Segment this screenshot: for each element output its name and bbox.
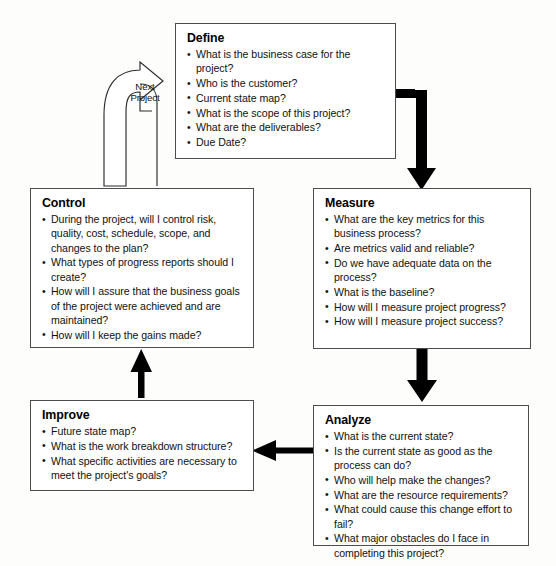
bullet-item: What could cause this change effort to f… — [325, 502, 519, 530]
bullet-item: How will I measure project progress? — [325, 300, 521, 314]
bullet-item: How will I assure that the business goal… — [42, 284, 244, 327]
phase-title-improve: Improve — [42, 408, 244, 423]
bullet-item: Is the current state as good as the proc… — [325, 444, 519, 472]
bullet-item: What is the work breakdown structure? — [42, 439, 244, 453]
bullet-item: What are the deliverables? — [187, 120, 386, 134]
phase-title-measure: Measure — [325, 196, 521, 211]
next-project-label-line2: Project — [130, 92, 159, 103]
bullet-item: What are the key metrics for this busine… — [325, 212, 521, 240]
bullet-item: How will I measure project success? — [325, 314, 521, 328]
arrow-improve-to-control — [131, 349, 153, 398]
phase-title-control: Control — [42, 196, 244, 211]
bullet-item: What specific activities are necessary t… — [42, 454, 244, 482]
next-project-label: Next Project — [118, 81, 172, 104]
arrow-analyze-to-improve — [252, 440, 316, 461]
bullet-item: Due Date? — [187, 135, 386, 149]
bullet-item: What is the scope of this project? — [187, 106, 386, 120]
bullet-item: Who will help make the changes? — [325, 473, 519, 487]
next-project-label-line1: Next — [135, 81, 154, 92]
phase-title-define: Define — [187, 31, 386, 46]
phase-box-improve[interactable]: Improve Future state map? What is the wo… — [30, 400, 254, 491]
phase-bullets-analyze: What is the current state? Is the curren… — [325, 429, 519, 560]
phase-bullets-improve: Future state map? What is the work break… — [42, 424, 244, 482]
bullet-item: Are metrics valid and reliable? — [325, 241, 521, 255]
dmaic-diagram-canvas: Next Project Define What is the business… — [0, 0, 556, 566]
bullet-item: During the project, will I control risk,… — [42, 212, 244, 255]
bullet-item: Do we have adequate data on the process? — [325, 256, 521, 284]
bullet-item: What major obstacles do I face in comple… — [325, 531, 519, 559]
bullet-item: Who is the customer? — [187, 76, 386, 90]
phase-box-analyze[interactable]: Analyze What is the current state? Is th… — [313, 405, 529, 546]
phase-box-measure[interactable]: Measure What are the key metrics for thi… — [313, 188, 531, 349]
bullet-item: What is the business case for the projec… — [187, 47, 386, 75]
phase-bullets-define: What is the business case for the projec… — [187, 47, 386, 149]
bullet-item: What is the current state? — [325, 429, 519, 443]
phase-box-control[interactable]: Control During the project, will I contr… — [30, 188, 254, 348]
bullet-item: Future state map? — [42, 424, 244, 438]
phase-title-analyze: Analyze — [325, 413, 519, 428]
bullet-item: What is the baseline? — [325, 285, 521, 299]
bullet-item: How will I keep the gains made? — [42, 328, 244, 342]
arrow-define-to-measure — [392, 89, 436, 190]
phase-box-define[interactable]: Define What is the business case for the… — [175, 23, 396, 159]
phase-bullets-control: During the project, will I control risk,… — [42, 212, 244, 342]
bullet-item: What types of progress reports should I … — [42, 255, 244, 283]
bullet-item: Current state map? — [187, 91, 386, 105]
arrow-measure-to-analyze — [407, 344, 437, 402]
bullet-item: What are the resource requirements? — [325, 488, 519, 502]
phase-bullets-measure: What are the key metrics for this busine… — [325, 212, 521, 328]
